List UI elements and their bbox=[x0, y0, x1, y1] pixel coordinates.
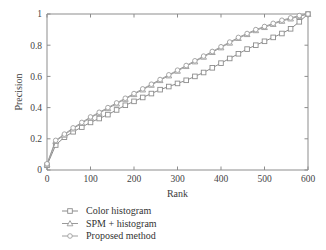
square-marker-icon bbox=[158, 87, 163, 92]
y-tick-label: 0 bbox=[37, 165, 42, 175]
x-tick-label: 100 bbox=[83, 174, 98, 184]
x-tick-label: 400 bbox=[214, 174, 229, 184]
square-marker-icon bbox=[114, 108, 119, 113]
series-line bbox=[47, 14, 308, 165]
circle-marker-icon bbox=[210, 49, 215, 54]
y-tick-label: 1 bbox=[37, 9, 42, 19]
legend-label: Proposed method bbox=[86, 230, 156, 241]
square-marker-icon bbox=[88, 120, 93, 125]
circle-marker-icon bbox=[62, 132, 67, 137]
square-marker-icon bbox=[193, 74, 198, 79]
square-marker-icon bbox=[123, 103, 128, 108]
square-marker-icon bbox=[201, 70, 206, 75]
square-marker-icon bbox=[236, 51, 241, 56]
series-color-histogram bbox=[45, 12, 311, 168]
axes bbox=[47, 14, 308, 170]
circle-marker-icon bbox=[80, 120, 85, 125]
circle-marker-icon bbox=[45, 161, 50, 166]
square-marker-icon bbox=[210, 66, 215, 71]
series-line bbox=[47, 14, 308, 164]
square-marker-icon bbox=[68, 209, 73, 214]
y-tick-label: 0.2 bbox=[30, 134, 42, 144]
x-tick-label: 600 bbox=[301, 174, 316, 184]
legend-label: Color histogram bbox=[86, 205, 151, 216]
circle-marker-icon bbox=[149, 82, 154, 87]
circle-marker-icon bbox=[219, 44, 224, 49]
circle-marker-icon bbox=[97, 110, 102, 115]
tick-marks bbox=[47, 14, 308, 170]
circle-marker-icon bbox=[184, 63, 189, 68]
square-marker-icon bbox=[132, 99, 137, 104]
data-series bbox=[44, 11, 311, 167]
square-marker-icon bbox=[175, 81, 180, 86]
square-marker-icon bbox=[297, 20, 302, 25]
y-tick-labels: 00.20.40.60.81 bbox=[30, 9, 42, 175]
circle-marker-icon bbox=[158, 77, 163, 82]
square-marker-icon bbox=[140, 95, 145, 100]
x-axis-title: Rank bbox=[167, 188, 188, 199]
legend-item[interactable]: Proposed method bbox=[62, 230, 156, 241]
precision-rank-figure: 0100200300400500600 00.20.40.60.81 RankP… bbox=[0, 0, 326, 250]
legend: Color histogramSPM + histogramProposed m… bbox=[62, 205, 157, 241]
circle-marker-icon bbox=[271, 21, 276, 26]
circle-marker-icon bbox=[53, 138, 58, 143]
square-marker-icon bbox=[254, 43, 259, 48]
y-tick-label: 0.8 bbox=[30, 41, 42, 51]
square-marker-icon bbox=[219, 61, 224, 66]
circle-marker-icon bbox=[106, 105, 111, 110]
x-tick-label: 200 bbox=[127, 174, 142, 184]
x-tick-label: 500 bbox=[257, 174, 272, 184]
y-tick-label: 0.4 bbox=[30, 103, 42, 113]
square-marker-icon bbox=[184, 78, 189, 83]
circle-marker-icon bbox=[193, 59, 198, 64]
circle-marker-icon bbox=[132, 91, 137, 96]
circle-marker-icon bbox=[297, 13, 302, 18]
circle-marker-icon bbox=[71, 126, 76, 131]
square-marker-icon bbox=[271, 35, 276, 40]
axis-lines bbox=[47, 14, 308, 170]
square-marker-icon bbox=[227, 56, 232, 61]
legend-item[interactable]: SPM + histogram bbox=[62, 218, 157, 229]
circle-marker-icon bbox=[123, 96, 128, 101]
circle-marker-icon bbox=[140, 87, 145, 92]
square-marker-icon bbox=[262, 39, 267, 44]
circle-marker-icon bbox=[245, 31, 250, 36]
square-marker-icon bbox=[149, 91, 154, 96]
square-marker-icon bbox=[288, 27, 293, 32]
circle-marker-icon bbox=[68, 234, 73, 239]
circle-marker-icon bbox=[262, 24, 267, 29]
series-line bbox=[47, 14, 308, 165]
y-tick-label: 0.6 bbox=[30, 72, 42, 82]
circle-marker-icon bbox=[280, 18, 285, 23]
square-marker-icon bbox=[280, 31, 285, 36]
circle-marker-icon bbox=[227, 40, 232, 45]
x-tick-label: 300 bbox=[170, 174, 185, 184]
circle-marker-icon bbox=[167, 73, 172, 78]
circle-marker-icon bbox=[88, 115, 93, 120]
circle-marker-icon bbox=[288, 16, 293, 21]
x-tick-label: 0 bbox=[45, 174, 50, 184]
circle-marker-icon bbox=[254, 27, 259, 32]
chart-canvas: 0100200300400500600 00.20.40.60.81 RankP… bbox=[0, 0, 326, 250]
legend-label: SPM + histogram bbox=[86, 218, 157, 229]
square-marker-icon bbox=[245, 47, 250, 52]
circle-marker-icon bbox=[175, 68, 180, 73]
circle-marker-icon bbox=[236, 35, 241, 40]
x-tick-labels: 0100200300400500600 bbox=[45, 174, 316, 184]
legend-item[interactable]: Color histogram bbox=[62, 205, 151, 216]
circle-marker-icon bbox=[114, 101, 119, 106]
series-spm-histogram bbox=[44, 11, 311, 167]
square-marker-icon bbox=[106, 112, 111, 117]
circle-marker-icon bbox=[306, 12, 311, 17]
square-marker-icon bbox=[167, 84, 172, 89]
y-axis-title: Precision bbox=[13, 73, 24, 110]
circle-marker-icon bbox=[201, 54, 206, 59]
square-marker-icon bbox=[97, 116, 102, 121]
